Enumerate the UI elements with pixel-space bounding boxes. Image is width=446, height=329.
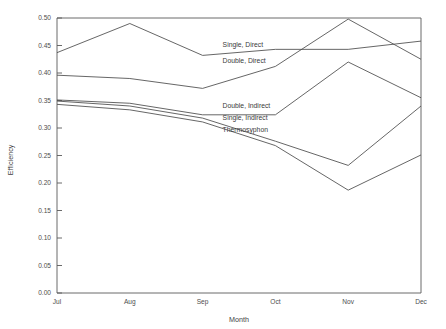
y-tick-label: 0.45 — [38, 42, 51, 49]
y-tick-label: 0.40 — [38, 69, 51, 76]
x-axis-title: Month — [229, 315, 249, 324]
x-tick-label: Sep — [197, 298, 209, 306]
x-tick-label: Jul — [53, 298, 62, 305]
y-tick-label: 0.05 — [38, 262, 51, 269]
series-annotation: Single, Indirect — [223, 114, 268, 122]
y-tick-label: 0.30 — [38, 124, 51, 131]
y-tick-label: 0.35 — [38, 97, 51, 104]
y-axis-title: Efficiency — [6, 144, 15, 175]
y-tick-label: 0.00 — [38, 289, 51, 296]
x-axis-tick-labels: JulAugSepOctNovDec — [53, 298, 428, 306]
series-annotations: Single, DirectDouble, DirectDouble, Indi… — [223, 41, 271, 134]
series-annotation: Double, Direct — [223, 57, 266, 64]
series-annotation: Thermosyphon — [223, 126, 269, 134]
series-annotation: Double, Indirect — [223, 102, 271, 109]
y-tick-label: 0.10 — [38, 234, 51, 241]
x-tick-label: Oct — [270, 298, 280, 305]
y-tick-label: 0.15 — [38, 207, 51, 214]
line-chart: 0.000.050.100.150.200.250.300.350.400.45… — [0, 0, 446, 329]
y-axis-tick-labels: 0.000.050.100.150.200.250.300.350.400.45… — [38, 14, 51, 296]
series-line-double-direct — [57, 19, 421, 88]
series-line-single-direct — [57, 24, 421, 56]
y-tick-marks — [57, 18, 62, 293]
chart-container: 0.000.050.100.150.200.250.300.350.400.45… — [0, 0, 446, 329]
x-tick-label: Aug — [124, 298, 136, 306]
x-tick-label: Nov — [342, 298, 354, 305]
y-tick-label: 0.20 — [38, 179, 51, 186]
y-tick-label: 0.25 — [38, 152, 51, 159]
y-tick-label: 0.50 — [38, 14, 51, 21]
x-tick-label: Dec — [415, 298, 427, 305]
series-line-single-indirect — [57, 101, 421, 165]
series-annotation: Single, Direct — [223, 41, 264, 49]
